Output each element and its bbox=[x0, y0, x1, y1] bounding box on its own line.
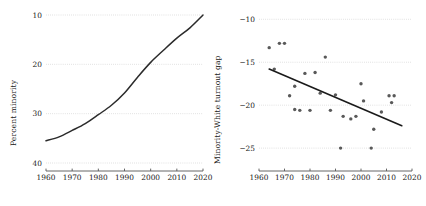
y-tick-label: −25 bbox=[239, 144, 255, 153]
x-tick-label: 2010 bbox=[377, 173, 396, 182]
x-tick-label: 1990 bbox=[115, 173, 134, 182]
scatter-point bbox=[380, 110, 383, 113]
scatter-point bbox=[334, 93, 337, 96]
figure-two-panel-chart: Percent minority 40302010196019701980199… bbox=[0, 0, 426, 206]
x-tick-label: 2020 bbox=[403, 173, 422, 182]
x-tick-label: 1980 bbox=[301, 173, 320, 182]
scatter-point bbox=[372, 128, 375, 131]
scatter-point bbox=[362, 99, 365, 102]
scatter-point bbox=[298, 109, 301, 112]
y-tick-label: −20 bbox=[239, 101, 255, 110]
scatter-point bbox=[278, 42, 281, 45]
scatter-point bbox=[283, 42, 286, 45]
x-tick-label: 1960 bbox=[37, 173, 56, 182]
scatter-point bbox=[341, 115, 344, 118]
y-tick-label: 10 bbox=[33, 11, 43, 20]
y-tick-label: 30 bbox=[33, 109, 43, 118]
x-tick-label: 2020 bbox=[194, 173, 213, 182]
scatter-point bbox=[339, 146, 342, 149]
y-tick-label: 20 bbox=[33, 60, 43, 69]
plot-area-left: 403020101960197019801990200020102020 bbox=[0, 0, 213, 206]
scatter-point bbox=[370, 146, 373, 149]
x-tick-label: 1980 bbox=[89, 173, 108, 182]
scatter-point bbox=[308, 109, 311, 112]
scatter-point bbox=[359, 82, 362, 85]
scatter-point bbox=[392, 94, 395, 97]
scatter-point bbox=[329, 109, 332, 112]
x-tick-label: 2010 bbox=[167, 173, 186, 182]
line-series-percent-minority bbox=[46, 15, 203, 141]
scatter-point bbox=[324, 55, 327, 58]
scatter-point bbox=[268, 46, 271, 49]
x-tick-label: 2000 bbox=[352, 173, 371, 182]
scatter-point bbox=[288, 94, 291, 97]
y-tick-label: 40 bbox=[33, 159, 43, 168]
x-tick-label: 1970 bbox=[275, 173, 294, 182]
plot-area-right: −10−15−20−251960197019801990200020102020 bbox=[213, 0, 426, 206]
y-tick-label: −10 bbox=[239, 15, 255, 24]
scatter-point bbox=[313, 71, 316, 74]
scatter-point bbox=[390, 101, 393, 104]
scatter-point bbox=[293, 85, 296, 88]
scatter-point bbox=[293, 108, 296, 111]
panel-turnout-gap: Minority-White turnout gap −10−15−20−251… bbox=[213, 0, 426, 206]
x-tick-label: 1990 bbox=[326, 173, 345, 182]
scatter-point bbox=[349, 117, 352, 120]
trend-line bbox=[269, 69, 402, 126]
panel-percent-minority: Percent minority 40302010196019701980199… bbox=[0, 0, 213, 206]
y-tick-label: −15 bbox=[239, 58, 255, 67]
x-tick-label: 1960 bbox=[250, 173, 269, 182]
scatter-point bbox=[387, 94, 390, 97]
scatter-point bbox=[354, 115, 357, 118]
x-tick-label: 1970 bbox=[63, 173, 82, 182]
x-tick-label: 2000 bbox=[141, 173, 160, 182]
scatter-point bbox=[303, 72, 306, 75]
